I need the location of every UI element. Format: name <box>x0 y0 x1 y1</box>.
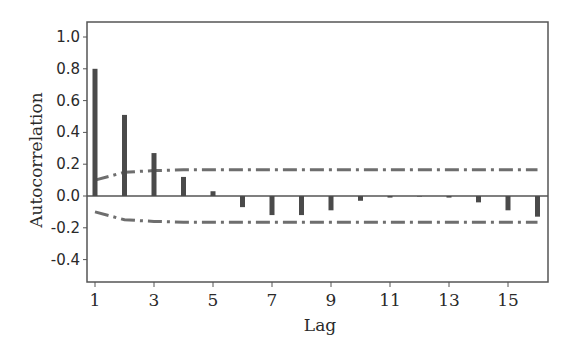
x-tick-label: 7 <box>267 290 278 310</box>
acf-bar <box>476 196 481 202</box>
x-tick-label: 15 <box>497 290 519 310</box>
acf-bars <box>93 69 541 217</box>
acf-bar <box>211 191 216 196</box>
acf-bar <box>240 196 245 207</box>
x-tick-label: 13 <box>438 290 460 310</box>
x-tick-label: 5 <box>208 290 219 310</box>
acf-bar <box>93 69 98 196</box>
acf-bar <box>535 196 540 217</box>
acf-bar <box>417 196 422 197</box>
x-axis-ticks: 13579111315 <box>90 282 519 310</box>
x-tick-label: 11 <box>379 290 401 310</box>
acf-bar <box>506 196 511 210</box>
plot-frame <box>87 22 548 282</box>
x-tick-label: 1 <box>90 290 101 310</box>
acf-bar <box>358 196 363 201</box>
acf-bar <box>152 153 157 196</box>
y-tick-label: -0.4 <box>51 251 80 269</box>
x-tick-label: 9 <box>326 290 337 310</box>
acf-chart: 1.00.80.60.40.20.0-0.2-0.4 13579111315 L… <box>0 0 575 345</box>
x-tick-label: 3 <box>149 290 160 310</box>
y-tick-label: 0.2 <box>56 155 80 173</box>
acf-bar <box>181 177 186 196</box>
y-axis-title: Autocorrelation <box>26 92 46 228</box>
x-axis-title: Lag <box>304 315 336 335</box>
plot-border <box>87 22 548 282</box>
y-tick-label: 0.6 <box>56 92 80 110</box>
y-tick-label: 0.4 <box>56 123 80 141</box>
y-tick-label: 1.0 <box>56 28 80 46</box>
acf-bar <box>122 115 127 196</box>
upper-confidence-limit-line <box>95 170 538 180</box>
acf-bar <box>270 196 275 215</box>
y-tick-label: 0.8 <box>56 60 80 78</box>
lower-confidence-limit-line <box>95 212 538 222</box>
acf-bar <box>329 196 334 210</box>
acf-bar <box>447 196 452 198</box>
acf-bar <box>388 196 393 198</box>
y-tick-label: -0.2 <box>51 219 80 237</box>
y-tick-label: 0.0 <box>56 187 80 205</box>
acf-bar <box>299 196 304 215</box>
y-axis-ticks: 1.00.80.60.40.20.0-0.2-0.4 <box>51 28 87 269</box>
